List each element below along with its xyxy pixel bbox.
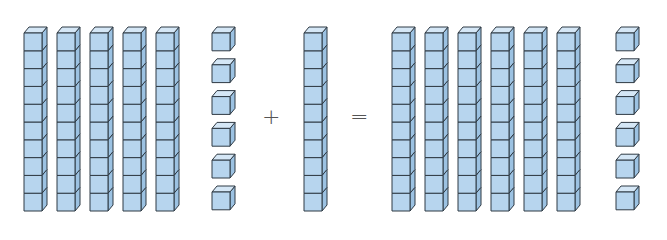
- cube-front-face: [90, 158, 108, 176]
- cube-front-face: [57, 69, 75, 87]
- cube-front-face: [24, 175, 42, 193]
- equals-sign: =: [350, 106, 368, 128]
- cube-front-face: [458, 51, 476, 69]
- cube-front-face: [392, 69, 410, 87]
- cube-front-face: [57, 86, 75, 104]
- cube-front-face: [90, 86, 108, 104]
- cube-front-face: [491, 122, 509, 140]
- cube-front-face: [156, 33, 174, 51]
- cube-front-face: [425, 140, 443, 158]
- cube-front-face: [90, 33, 108, 51]
- cube-front-face: [392, 158, 410, 176]
- rod-cube: [425, 27, 448, 51]
- cube-front-face: [425, 193, 443, 211]
- cube-front-face: [24, 51, 42, 69]
- cube-front-face: [491, 69, 509, 87]
- unit-cube: [212, 27, 235, 51]
- unit-cube: [212, 59, 235, 83]
- cube-front-face: [304, 122, 322, 140]
- ten-rod: [123, 27, 146, 211]
- cube-front-face: [90, 140, 108, 158]
- cube-front-face: [616, 160, 634, 178]
- cube-front-face: [304, 51, 322, 69]
- ten-rod: [491, 27, 514, 211]
- cube-front-face: [425, 51, 443, 69]
- ten-rod: [304, 27, 327, 211]
- cube-front-face: [90, 104, 108, 122]
- cube-front-face: [458, 86, 476, 104]
- cube-front-face: [304, 158, 322, 176]
- cube-front-face: [212, 65, 230, 83]
- cube-front-face: [557, 158, 575, 176]
- cube-front-face: [491, 175, 509, 193]
- cube-front-face: [458, 158, 476, 176]
- cube-front-face: [557, 175, 575, 193]
- cube-front-face: [90, 69, 108, 87]
- cube-front-face: [24, 86, 42, 104]
- cube-front-face: [458, 33, 476, 51]
- cube-front-face: [123, 33, 141, 51]
- cube-front-face: [392, 175, 410, 193]
- cube-front-face: [425, 175, 443, 193]
- cube-front-face: [524, 193, 542, 211]
- rod-cube: [57, 27, 80, 51]
- sum-66-blocks: [392, 27, 639, 211]
- unit-cube: [616, 186, 639, 210]
- cube-front-face: [212, 97, 230, 115]
- cube-front-face: [392, 33, 410, 51]
- rod-cube: [392, 27, 415, 51]
- ten-rod: [557, 27, 580, 211]
- cube-front-face: [90, 193, 108, 211]
- cube-front-face: [304, 69, 322, 87]
- cube-front-face: [304, 104, 322, 122]
- cube-front-face: [156, 193, 174, 211]
- cube-front-face: [123, 86, 141, 104]
- cube-front-face: [392, 86, 410, 104]
- cube-front-face: [304, 193, 322, 211]
- cube-front-face: [57, 122, 75, 140]
- cube-front-face: [425, 104, 443, 122]
- cube-front-face: [57, 51, 75, 69]
- cube-front-face: [24, 122, 42, 140]
- cube-front-face: [616, 192, 634, 210]
- cube-front-face: [24, 140, 42, 158]
- cube-front-face: [616, 128, 634, 146]
- cube-front-face: [524, 175, 542, 193]
- cube-front-face: [524, 158, 542, 176]
- cube-front-face: [616, 33, 634, 51]
- cube-front-face: [57, 33, 75, 51]
- cube-front-face: [304, 175, 322, 193]
- cube-front-face: [123, 69, 141, 87]
- cube-front-face: [24, 33, 42, 51]
- addend-10-blocks: [304, 27, 327, 211]
- cube-front-face: [491, 33, 509, 51]
- cube-front-face: [491, 51, 509, 69]
- cube-front-face: [304, 33, 322, 51]
- cube-front-face: [123, 193, 141, 211]
- cube-front-face: [524, 140, 542, 158]
- cube-front-face: [491, 140, 509, 158]
- cube-front-face: [557, 69, 575, 87]
- cube-front-face: [304, 86, 322, 104]
- cube-front-face: [458, 104, 476, 122]
- cube-front-face: [557, 193, 575, 211]
- cube-front-face: [392, 51, 410, 69]
- cube-front-face: [212, 160, 230, 178]
- cube-front-face: [24, 193, 42, 211]
- cube-front-face: [57, 193, 75, 211]
- ten-rod: [425, 27, 448, 211]
- cube-front-face: [425, 122, 443, 140]
- ten-rod: [156, 27, 179, 211]
- cube-front-face: [156, 158, 174, 176]
- rod-cube: [304, 27, 327, 51]
- cube-front-face: [392, 193, 410, 211]
- ten-rod: [392, 27, 415, 211]
- cube-front-face: [156, 122, 174, 140]
- cube-front-face: [212, 33, 230, 51]
- cube-front-face: [90, 175, 108, 193]
- cube-front-face: [524, 33, 542, 51]
- ten-rod: [57, 27, 80, 211]
- cube-front-face: [557, 51, 575, 69]
- cube-front-face: [57, 158, 75, 176]
- cube-front-face: [458, 193, 476, 211]
